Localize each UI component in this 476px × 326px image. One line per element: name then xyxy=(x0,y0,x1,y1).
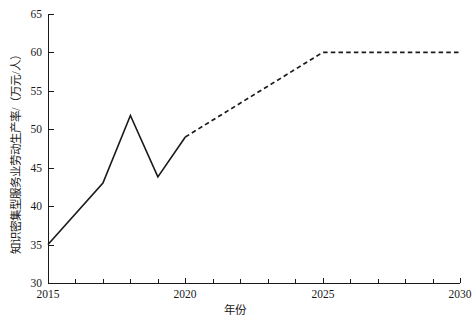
series-forecast xyxy=(185,52,460,137)
x-tick-label: 2030 xyxy=(440,289,476,301)
x-tick-label: 2025 xyxy=(303,289,343,301)
y-tick-label: 55 xyxy=(20,86,42,98)
x-tick-label: 2020 xyxy=(165,289,205,301)
x-tick-label: 2015 xyxy=(28,289,68,301)
axis-spines xyxy=(48,14,460,283)
y-axis-title: 知识密集型服务业劳动生产率/（万元/人） xyxy=(11,54,23,254)
y-tick-label: 45 xyxy=(20,163,42,175)
y-tick-label: 65 xyxy=(20,9,42,21)
series-historical xyxy=(48,115,185,244)
y-tick-label: 35 xyxy=(20,240,42,252)
y-tick-label: 60 xyxy=(20,47,42,59)
y-tick-label: 40 xyxy=(20,201,42,213)
x-axis-title: 年份 xyxy=(0,305,469,317)
x-axis-ticks xyxy=(49,278,461,283)
y-tick-label: 50 xyxy=(20,124,42,136)
